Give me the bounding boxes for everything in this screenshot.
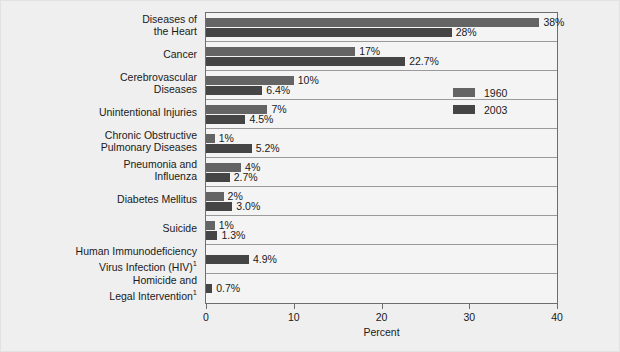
bar-1960 bbox=[206, 18, 539, 27]
bar-value-label-1960: 7% bbox=[271, 104, 286, 115]
category-label: Diabetes Mellitus bbox=[1, 194, 197, 206]
x-axis-tick bbox=[382, 304, 383, 309]
chart-row: 0.7% bbox=[206, 274, 557, 303]
x-axis-tick-label: 30 bbox=[463, 311, 475, 323]
bar-2003 bbox=[206, 202, 232, 211]
chart-row: 2%3.0% bbox=[206, 187, 557, 216]
bar-2003 bbox=[206, 144, 252, 153]
category-label: Suicide bbox=[1, 223, 197, 235]
legend-item: 1960 bbox=[453, 85, 507, 100]
bar-2003 bbox=[206, 284, 212, 293]
bar-value-label-2003: 0.7% bbox=[216, 283, 240, 294]
bar-2003 bbox=[206, 231, 217, 240]
x-axis-tick bbox=[469, 304, 470, 309]
category-label: Pneumonia andInfluenza bbox=[1, 159, 197, 182]
bar-1960 bbox=[206, 134, 215, 143]
chart-row: 4%2.7% bbox=[206, 158, 557, 187]
chart-row: 4.9% bbox=[206, 245, 557, 274]
bar-value-label-1960: 1% bbox=[219, 133, 234, 144]
x-axis: 010203040 bbox=[205, 304, 558, 328]
chart-figure: Diseases ofthe HeartCancerCerebrovascula… bbox=[0, 0, 620, 352]
bar-value-label-1960: 10% bbox=[298, 75, 319, 86]
x-axis-tick-label: 10 bbox=[288, 311, 300, 323]
chart-row: 1%5.2% bbox=[206, 129, 557, 158]
bar-value-label-2003: 3.0% bbox=[236, 201, 260, 212]
chart-row: 38%28% bbox=[206, 13, 557, 42]
legend-item: 2003 bbox=[453, 102, 507, 117]
x-axis-tick bbox=[294, 304, 295, 309]
chart-row: 17%22.7% bbox=[206, 42, 557, 71]
bar-1960 bbox=[206, 192, 224, 201]
legend-swatch bbox=[453, 88, 475, 97]
bar-value-label-1960: 38% bbox=[543, 17, 564, 28]
bar-2003 bbox=[206, 115, 245, 124]
x-axis-tick-label: 0 bbox=[203, 311, 209, 323]
bar-value-label-2003: 1.3% bbox=[221, 230, 245, 241]
category-label: Chronic ObstructivePulmonary Diseases bbox=[1, 130, 197, 153]
bar-value-label-2003: 4.9% bbox=[253, 254, 277, 265]
category-label: Human ImmunodeficiencyVirus Infection (H… bbox=[1, 246, 197, 273]
chart-row: 1%1.3% bbox=[206, 216, 557, 245]
legend-label: 1960 bbox=[484, 87, 507, 99]
legend-swatch bbox=[453, 105, 475, 114]
legend-label: 2003 bbox=[484, 104, 507, 116]
bar-2003 bbox=[206, 255, 249, 264]
x-axis-tick-label: 40 bbox=[551, 311, 563, 323]
bar-value-label-2003: 28% bbox=[456, 27, 477, 38]
x-axis-tick-label: 20 bbox=[376, 311, 388, 323]
bar-2003 bbox=[206, 86, 262, 95]
x-axis-tick bbox=[206, 304, 207, 309]
bar-1960 bbox=[206, 47, 355, 56]
x-axis-tick bbox=[557, 304, 558, 309]
bar-value-label-2003: 6.4% bbox=[266, 85, 290, 96]
category-label: Cancer bbox=[1, 49, 197, 61]
category-label: Diseases ofthe Heart bbox=[1, 14, 197, 37]
bar-value-label-2003: 22.7% bbox=[409, 56, 439, 67]
x-axis-title: Percent bbox=[205, 326, 558, 338]
bar-value-label-2003: 5.2% bbox=[256, 143, 280, 154]
plot-area: 38%28%17%22.7%10%6.4%7%4.5%1%5.2%4%2.7%2… bbox=[205, 12, 558, 304]
category-label: CerebrovascularDiseases bbox=[1, 72, 197, 95]
category-label: Homicide andLegal Intervention1 bbox=[1, 275, 197, 302]
bar-2003 bbox=[206, 28, 452, 37]
bar-2003 bbox=[206, 57, 405, 66]
bar-value-label-2003: 2.7% bbox=[234, 172, 258, 183]
chart-legend: 19602003 bbox=[453, 85, 507, 119]
category-label: Unintentional Injuries bbox=[1, 107, 197, 119]
bar-2003 bbox=[206, 173, 230, 182]
bar-1960 bbox=[206, 221, 215, 230]
bar-value-label-1960: 17% bbox=[359, 46, 380, 57]
bar-value-label-2003: 4.5% bbox=[249, 114, 273, 125]
